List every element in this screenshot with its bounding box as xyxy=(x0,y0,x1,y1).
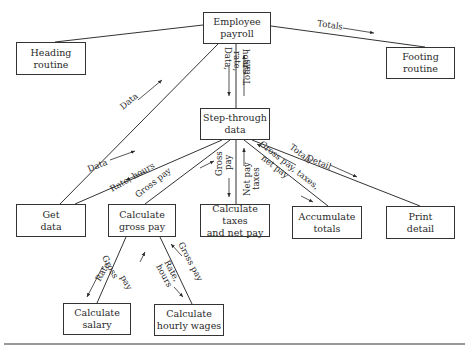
node-text: Employee xyxy=(213,16,260,28)
node-text: Get xyxy=(40,209,61,221)
node-text: Calculate taxes xyxy=(201,203,269,227)
node-print-detail: Printdetail xyxy=(386,206,455,239)
label-data-line1: Data, xyxy=(223,47,233,70)
node-text: Print xyxy=(407,211,434,223)
node-text: Calculate xyxy=(157,308,221,320)
node-text: Step-through xyxy=(203,112,267,124)
node-footing-routine: Footingroutine xyxy=(386,47,455,79)
node-text: Footing xyxy=(402,51,439,63)
node-text: Heading xyxy=(31,47,72,59)
label-detail: Detail xyxy=(305,153,333,172)
node-text: routine xyxy=(402,63,439,75)
node-text: Calculate xyxy=(74,307,120,319)
label-data-up: Data xyxy=(118,91,140,112)
node-step-through-data: Step-throughdata xyxy=(200,108,270,140)
node-calculate-hourly-wages: Calculatehourly wages xyxy=(154,304,224,336)
node-text: hourly wages xyxy=(157,320,221,332)
node-get-data: Getdata xyxy=(16,204,86,237)
node-calculate-salary: Calculatesalary xyxy=(63,303,131,335)
label-totals-to-footing: Totals xyxy=(317,18,344,31)
node-text: data xyxy=(203,124,267,136)
label-data-line2: rate, xyxy=(232,51,242,71)
node-text: Accumulate xyxy=(299,211,356,223)
label-get-data: Data xyxy=(86,157,109,174)
node-text: data xyxy=(40,221,61,233)
node-text: payroll xyxy=(213,28,260,40)
node-text: totals xyxy=(299,223,356,235)
node-heading-routine: Headingroutine xyxy=(16,42,86,75)
node-text: Calculate xyxy=(119,209,165,221)
node-calculate-taxes: Calculate taxesand net pay xyxy=(200,204,270,237)
node-employee-payroll: Employeepayroll xyxy=(203,12,271,44)
node-text: gross pay xyxy=(119,221,165,233)
node-text: detail xyxy=(407,223,434,235)
label-pay-salary: pay xyxy=(118,273,134,291)
node-text: salary xyxy=(74,319,120,331)
node-text: routine xyxy=(31,59,72,71)
label-totals-up: Totals xyxy=(242,59,252,85)
label-pay: pay xyxy=(223,154,233,170)
label-taxes: taxes xyxy=(251,167,261,190)
node-calculate-gross-pay: Calculategross pay xyxy=(108,204,176,237)
node-accumulate-totals: Accumulatetotals xyxy=(292,206,362,239)
node-text: and net pay xyxy=(201,227,269,239)
